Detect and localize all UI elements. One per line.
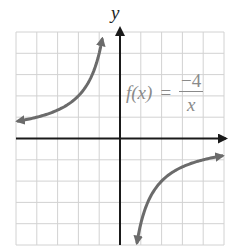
formula-equals: = xyxy=(160,82,171,104)
axes xyxy=(16,28,226,245)
function-formula: f(x) = −4 x xyxy=(126,71,203,114)
formula-fraction: −4 x xyxy=(179,71,203,114)
y-axis-label: y xyxy=(111,3,119,22)
curve-branch-right xyxy=(137,156,222,243)
graph-plot xyxy=(0,0,229,250)
curve-branch-left xyxy=(18,39,102,121)
formula-numerator: −4 xyxy=(179,71,203,92)
formula-denominator: x xyxy=(187,92,195,114)
formula-lhs: f(x) xyxy=(126,82,152,104)
